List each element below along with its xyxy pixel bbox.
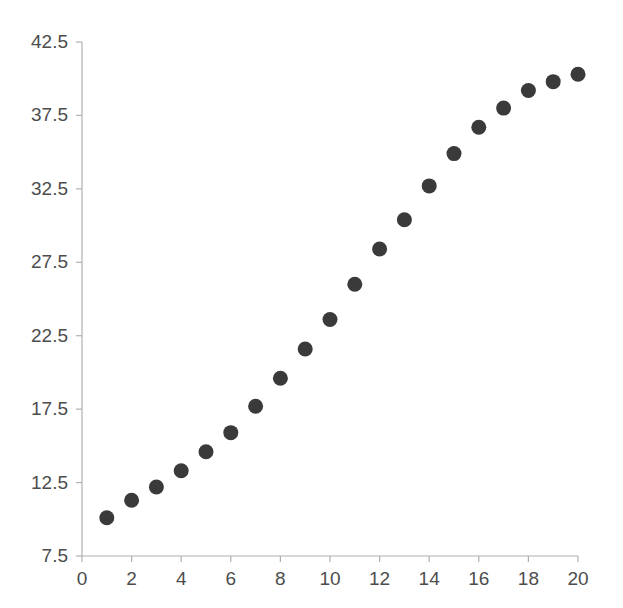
data-point-marker <box>347 277 362 292</box>
x-tick-label: 10 <box>319 568 340 590</box>
data-point-marker <box>422 178 437 193</box>
y-tick-label: 27.5 <box>31 251 68 273</box>
data-point-marker <box>248 399 263 414</box>
data-point-marker <box>174 463 189 478</box>
x-tick-label: 18 <box>518 568 539 590</box>
data-point-marker <box>99 510 114 525</box>
scatter-chart: 7.512.517.522.527.532.537.542.5 02468101… <box>0 0 623 608</box>
x-tick-label: 4 <box>176 568 187 590</box>
x-tick-label: 8 <box>275 568 286 590</box>
y-tick-label: 22.5 <box>31 325 68 347</box>
data-point-marker <box>521 83 536 98</box>
data-point-marker <box>546 74 561 89</box>
y-tick-label: 37.5 <box>31 104 68 126</box>
plot-area <box>0 0 623 608</box>
y-tick-label: 32.5 <box>31 178 68 200</box>
data-point-marker <box>273 371 288 386</box>
data-point-marker <box>571 67 586 82</box>
data-point-marker <box>223 425 238 440</box>
x-tick-label: 20 <box>567 568 588 590</box>
data-point-marker <box>447 146 462 161</box>
data-point-marker <box>372 242 387 257</box>
y-tick-label: 42.5 <box>31 31 68 53</box>
axes <box>82 42 578 556</box>
data-point-marker <box>397 212 412 227</box>
y-tick-label: 12.5 <box>31 472 68 494</box>
data-point-marker <box>199 444 214 459</box>
x-tick-label: 6 <box>226 568 237 590</box>
x-tick-label: 2 <box>126 568 137 590</box>
x-tick-label: 12 <box>369 568 390 590</box>
data-point-marker <box>496 101 511 116</box>
data-point-marker <box>323 312 338 327</box>
data-point-marker <box>149 479 164 494</box>
x-tick-label: 16 <box>468 568 489 590</box>
data-point-marker <box>124 493 139 508</box>
data-point-marker <box>298 341 313 356</box>
y-tick-label: 17.5 <box>31 398 68 420</box>
data-point-marker <box>471 120 486 135</box>
data-points <box>99 67 585 526</box>
x-tick-label: 14 <box>419 568 440 590</box>
x-tick-label: 0 <box>77 568 88 590</box>
y-tick-label: 7.5 <box>42 545 68 567</box>
